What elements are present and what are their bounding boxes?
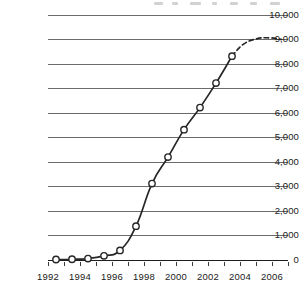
plot-area: 10,000 9,000 8,000 7,000 6,000 5,000 4,0…	[0, 0, 299, 295]
gridline-8000	[48, 64, 288, 65]
gridline-3000	[48, 186, 288, 187]
data-point-marker	[229, 53, 235, 59]
xtick-label-1998: 1998	[127, 272, 161, 282]
ytick-label-3000: 3,000	[255, 181, 299, 191]
ytick-label-10000: 10,000	[255, 10, 299, 20]
xtick-1993	[64, 262, 65, 266]
xtick-2000	[176, 262, 177, 266]
xtick-label-2002: 2002	[191, 272, 225, 282]
xtick-1994	[80, 262, 81, 266]
gridline-10000	[48, 15, 288, 16]
xtick-1996	[112, 262, 113, 266]
ytick-label-0: 0	[255, 255, 299, 265]
gridline-2000	[48, 211, 288, 212]
data-point-markers	[53, 53, 235, 263]
data-point-marker	[181, 126, 187, 132]
xtick-label-1996: 1996	[95, 272, 129, 282]
xtick-2006	[272, 262, 273, 266]
xtick-2007	[288, 262, 289, 266]
ytick-label-4000: 4,000	[255, 157, 299, 167]
xtick-2002	[208, 262, 209, 266]
ytick-label-9000: 9,000	[255, 34, 299, 44]
xtick-2003	[224, 262, 225, 266]
xtick-1997	[128, 262, 129, 266]
data-point-marker	[165, 154, 171, 160]
line-chart: 10,000 9,000 8,000 7,000 6,000 5,000 4,0…	[0, 0, 299, 295]
xtick-label-2000: 2000	[159, 272, 193, 282]
series-observed-line	[56, 56, 232, 259]
xtick-2004	[240, 262, 241, 266]
xtick-label-2006: 2006	[255, 272, 289, 282]
gridline-6000	[48, 113, 288, 114]
ytick-label-2000: 2,000	[255, 206, 299, 216]
gridline-7000	[48, 88, 288, 89]
xtick-1998	[144, 262, 145, 266]
data-point-marker	[117, 247, 123, 253]
gridline-9000	[48, 39, 288, 40]
ytick-label-7000: 7,000	[255, 83, 299, 93]
ytick-label-1000: 1,000	[255, 230, 299, 240]
xtick-2005	[256, 262, 257, 266]
ytick-label-6000: 6,000	[255, 108, 299, 118]
data-point-marker	[197, 104, 203, 110]
xtick-1999	[160, 262, 161, 266]
gridline-1000	[48, 235, 288, 236]
xtick-2001	[192, 262, 193, 266]
xtick-label-1994: 1994	[63, 272, 97, 282]
xtick-label-2004: 2004	[223, 272, 257, 282]
xtick-label-1992: 1992	[31, 272, 65, 282]
ytick-label-8000: 8,000	[255, 59, 299, 69]
data-point-marker	[133, 223, 139, 229]
series-layer	[0, 0, 299, 295]
gridline-5000	[48, 137, 288, 138]
data-point-marker	[101, 253, 107, 259]
xtick-1995	[96, 262, 97, 266]
data-point-marker	[213, 80, 219, 86]
x-axis-baseline	[48, 260, 288, 261]
gridline-4000	[48, 162, 288, 163]
ytick-label-5000: 5,000	[255, 132, 299, 142]
xtick-1992	[48, 262, 49, 266]
